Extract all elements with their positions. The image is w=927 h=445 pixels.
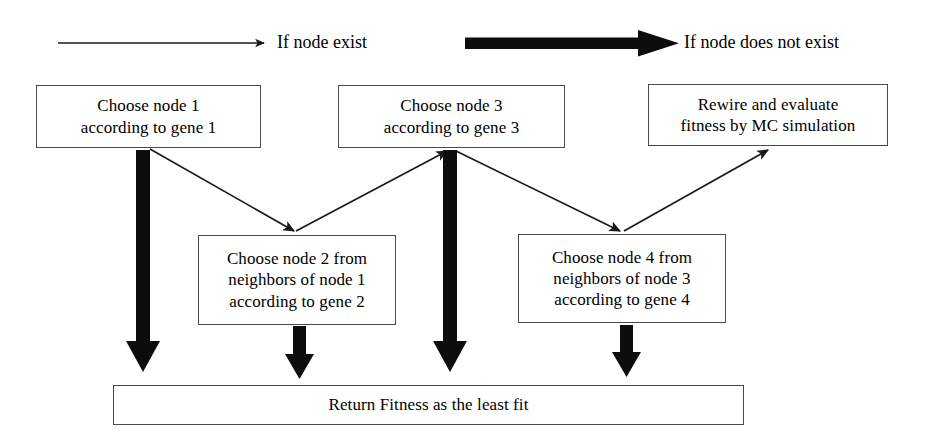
edge-node3-to-node4 xyxy=(456,151,620,231)
legend-label-if-node-exist: If node exist xyxy=(277,33,367,51)
edge-node4-to-rewire xyxy=(624,150,768,231)
edge-node3-to-return xyxy=(433,150,467,372)
box-return-fitness[interactable]: Return Fitness as the least fit xyxy=(113,385,744,425)
box-choose-node-4[interactable]: Choose node 4 from neighbors of node 3 a… xyxy=(518,234,726,323)
box-choose-node-1[interactable]: Choose node 1 according to gene 1 xyxy=(36,85,261,148)
box-choose-node-3[interactable]: Choose node 3 according to gene 3 xyxy=(338,85,565,148)
box-rewire-and-evaluate[interactable]: Rewire and evaluate fitness by MC simula… xyxy=(648,84,888,146)
diagram-canvas: If node exist If node does not exist Cho… xyxy=(0,0,927,445)
box-choose-node-2[interactable]: Choose node 2 from neighbors of node 1 a… xyxy=(198,235,396,325)
edge-node2-to-node3 xyxy=(296,151,447,231)
edge-node1-to-node2 xyxy=(150,149,294,231)
edge-node1-to-return xyxy=(126,150,160,372)
legend-thick-arrow xyxy=(465,30,679,57)
edge-node2-to-return xyxy=(285,326,314,379)
diagram-connectors-layer xyxy=(0,0,927,445)
legend-label-if-node-does-not-exist: If node does not exist xyxy=(684,33,839,51)
edge-node4-to-return xyxy=(612,325,641,377)
